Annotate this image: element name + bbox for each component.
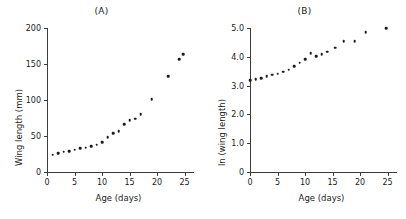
x-axis-tick bbox=[130, 173, 131, 176]
y-axis-tick-label: 3.0 bbox=[218, 81, 244, 90]
panel-b: (B) 01.02.03.04.05.00510152025Age (days)… bbox=[203, 0, 406, 219]
data-point bbox=[101, 141, 104, 144]
x-axis-line bbox=[47, 172, 194, 173]
data-point bbox=[62, 151, 65, 154]
y-axis-tick bbox=[247, 143, 250, 144]
x-axis-tick-label: 10 bbox=[97, 178, 107, 187]
data-point bbox=[167, 75, 170, 78]
data-point bbox=[150, 98, 153, 101]
x-axis-title: Age (days) bbox=[299, 193, 345, 203]
panel-a: (A) 0501001502000510152025Age (days)Wing… bbox=[0, 0, 203, 219]
x-axis-tick-label: 25 bbox=[382, 178, 392, 187]
data-point bbox=[304, 58, 307, 61]
y-axis-title: ln (wing length) bbox=[217, 99, 227, 166]
data-point bbox=[95, 143, 98, 146]
data-point bbox=[353, 40, 356, 43]
x-axis-tick-label: 15 bbox=[327, 178, 337, 187]
y-axis-tick bbox=[44, 100, 47, 101]
data-point bbox=[73, 148, 76, 151]
data-point bbox=[123, 123, 126, 126]
data-point bbox=[320, 53, 323, 56]
x-axis-line bbox=[250, 172, 397, 173]
data-point bbox=[298, 62, 301, 65]
x-axis-tick bbox=[305, 173, 306, 176]
data-point bbox=[271, 73, 274, 76]
data-point bbox=[315, 55, 318, 58]
data-point bbox=[293, 65, 296, 68]
data-point bbox=[326, 51, 329, 54]
x-axis-tick-label: 5 bbox=[275, 178, 280, 187]
data-point bbox=[276, 72, 279, 75]
y-axis-tick-label: 4.0 bbox=[218, 52, 244, 61]
data-point bbox=[68, 150, 71, 153]
y-axis-tick-label: 150 bbox=[15, 60, 41, 69]
data-point bbox=[364, 31, 367, 34]
data-point bbox=[249, 79, 252, 82]
x-axis-title: Age (days) bbox=[96, 193, 142, 203]
x-axis-tick-label: 20 bbox=[355, 178, 365, 187]
data-point bbox=[254, 78, 257, 81]
data-point bbox=[334, 46, 337, 49]
panel-b-label: (B) bbox=[203, 6, 406, 16]
data-point bbox=[182, 53, 185, 56]
data-point bbox=[282, 70, 285, 73]
x-axis-tick bbox=[250, 173, 251, 176]
y-axis-tick bbox=[247, 114, 250, 115]
y-axis-tick bbox=[247, 86, 250, 87]
y-axis-line bbox=[47, 28, 48, 173]
x-axis-tick bbox=[47, 173, 48, 176]
x-axis-tick bbox=[102, 173, 103, 176]
x-axis-tick-label: 20 bbox=[152, 178, 162, 187]
data-point bbox=[178, 58, 181, 61]
y-axis-tick bbox=[247, 57, 250, 58]
data-point bbox=[51, 153, 54, 156]
y-axis-tick bbox=[44, 28, 47, 29]
x-axis-tick bbox=[75, 173, 76, 176]
x-axis-tick bbox=[388, 173, 389, 176]
data-point bbox=[139, 113, 142, 116]
data-point bbox=[260, 77, 263, 80]
x-axis-tick bbox=[185, 173, 186, 176]
figure-two-panel-scatter: (A) 0501001502000510152025Age (days)Wing… bbox=[0, 0, 406, 219]
x-axis-tick bbox=[333, 173, 334, 176]
y-axis-tick-label: 0 bbox=[15, 168, 41, 177]
y-axis-tick-label: 0 bbox=[218, 168, 244, 177]
x-axis-tick bbox=[157, 173, 158, 176]
panel-a-label: (A) bbox=[0, 6, 203, 16]
y-axis-tick-label: 5.0 bbox=[218, 24, 244, 33]
x-axis-tick-label: 15 bbox=[124, 178, 134, 187]
data-point bbox=[112, 132, 115, 135]
y-axis-tick bbox=[44, 64, 47, 65]
x-axis-tick bbox=[360, 173, 361, 176]
x-axis-tick-label: 0 bbox=[247, 178, 252, 187]
data-point bbox=[342, 40, 345, 43]
x-axis-tick bbox=[278, 173, 279, 176]
data-point bbox=[128, 119, 131, 122]
y-axis-tick bbox=[44, 136, 47, 137]
y-axis-tick bbox=[247, 28, 250, 29]
y-axis-line bbox=[250, 28, 251, 173]
data-point bbox=[134, 117, 137, 120]
x-axis-tick-label: 0 bbox=[44, 178, 49, 187]
x-axis-tick-label: 25 bbox=[179, 178, 189, 187]
data-point bbox=[309, 52, 312, 55]
data-point bbox=[385, 27, 388, 30]
data-point bbox=[265, 75, 268, 78]
data-point bbox=[79, 147, 82, 150]
x-axis-tick-label: 10 bbox=[300, 178, 310, 187]
data-point bbox=[57, 152, 60, 155]
data-point bbox=[117, 130, 120, 133]
y-axis-tick-label: 200 bbox=[15, 24, 41, 33]
data-point bbox=[84, 146, 87, 149]
y-axis-title: Wing length (mm) bbox=[14, 89, 24, 166]
data-point bbox=[106, 136, 109, 139]
data-point bbox=[90, 145, 93, 148]
x-axis-tick-label: 5 bbox=[72, 178, 77, 187]
data-point bbox=[287, 68, 290, 71]
